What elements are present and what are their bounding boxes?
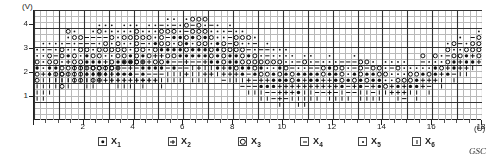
y-tick-label: 4: [14, 19, 28, 28]
x-tick-mark: [133, 120, 134, 125]
legend-item-x3: X3: [238, 136, 261, 148]
x-tick-mark: [269, 120, 270, 123]
filled-dot-icon: [98, 137, 107, 146]
legend-label: X5: [371, 136, 381, 148]
x-tick-mark: [120, 120, 121, 123]
x-axis-unit-label: (U): [474, 124, 485, 133]
x-tick-mark: [70, 120, 71, 123]
x-tick-mark: [456, 120, 457, 123]
plus-icon: [168, 137, 177, 146]
x-tick-mark: [344, 120, 345, 123]
credit-label: GSC: [469, 146, 486, 156]
x-tick-mark: [232, 120, 233, 125]
x-tick-mark: [319, 120, 320, 123]
legend: X1X2X3X4X5X6: [0, 136, 498, 159]
y-tick-mark: [29, 48, 33, 49]
x-tick-mark: [444, 120, 445, 123]
x-tick-mark: [406, 120, 407, 123]
x-tick-mark: [33, 120, 34, 125]
x-tick-mark: [170, 120, 171, 123]
x-tick-mark: [294, 120, 295, 123]
small-dot-icon: [358, 137, 367, 146]
y-tick-label: 1: [14, 91, 28, 100]
x-tick-mark: [195, 120, 196, 123]
x-tick-mark: [45, 120, 46, 123]
x-tick-mark: [157, 120, 158, 123]
figure-root: (V) 1234 24681012141618 (U) X1X2X3X4X5X6…: [0, 0, 498, 159]
x-tick-mark: [245, 120, 246, 123]
x-tick-mark: [307, 120, 308, 123]
y-tick-mark: [29, 96, 33, 97]
x-tick-mark: [394, 120, 395, 123]
legend-label: X6: [425, 136, 435, 148]
plot-area: [33, 10, 481, 120]
x-tick-mark: [108, 120, 109, 123]
x-tick-mark: [257, 120, 258, 123]
x-tick-mark: [369, 120, 370, 123]
x-tick-mark: [207, 120, 208, 123]
legend-label: X1: [111, 136, 121, 148]
legend-item-x1: X1: [98, 136, 121, 148]
x-tick-mark: [95, 120, 96, 123]
y-axis-unit-label: (V): [22, 2, 33, 11]
y-tick-mark: [29, 72, 33, 73]
x-tick-mark: [357, 120, 358, 123]
x-tick-mark: [419, 120, 420, 123]
legend-label: X2: [181, 136, 191, 148]
symbol-grid-canvas: [34, 10, 482, 120]
y-tick-label: 3: [14, 43, 28, 52]
circle-icon: [238, 137, 247, 146]
x-tick-mark: [282, 120, 283, 125]
dash-icon: [300, 137, 309, 146]
vertical-bar-icon: [412, 137, 421, 146]
y-tick-mark: [29, 24, 33, 25]
x-tick-mark: [83, 120, 84, 125]
x-tick-mark: [58, 120, 59, 123]
x-tick-mark: [381, 120, 382, 125]
x-tick-mark: [469, 120, 470, 123]
legend-label: X4: [313, 136, 323, 148]
x-tick-mark: [145, 120, 146, 123]
x-tick-mark: [220, 120, 221, 123]
legend-item-x4: X4: [300, 136, 323, 148]
x-tick-mark: [182, 120, 183, 125]
x-tick-mark: [431, 120, 432, 125]
x-tick-mark: [332, 120, 333, 125]
legend-item-x2: X2: [168, 136, 191, 148]
legend-item-x5: X5: [358, 136, 381, 148]
legend-item-x6: X6: [412, 136, 435, 148]
legend-label: X3: [251, 136, 261, 148]
y-tick-label: 2: [14, 67, 28, 76]
